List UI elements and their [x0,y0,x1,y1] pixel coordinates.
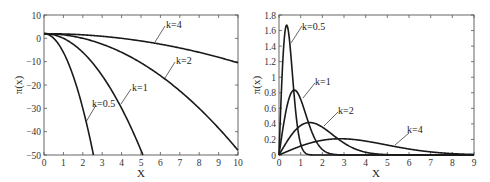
right-curve-k2 [279,123,474,155]
right-y-tick-label: 0.6 [264,104,276,114]
right-ticks: 01234567891.81.61.41.210.80.60.40.20 [264,11,477,169]
right-x-tick-label: 0 [277,158,282,168]
left-y-tick-label: −10 [26,57,41,67]
right-x-tick-label: 3 [342,158,347,168]
left-annotation-arrow-k2 [165,62,175,78]
left-x-axis-label: X [137,167,145,179]
left-y-tick-label: 10 [32,11,42,21]
left-curves [44,34,238,155]
left-curve-k0.5 [44,34,93,155]
right-chart: 01234567891.81.61.41.210.80.60.40.20 k=0… [250,11,477,180]
right-curve-k4 [279,139,474,155]
left-x-tick-label: 7 [177,158,182,168]
right-y-axis-label: π(x) [250,75,263,94]
right-annotation-arrow-k1 [303,83,315,98]
right-x-tick-label: 8 [450,158,455,168]
right-x-tick-label: 6 [407,158,412,168]
right-annotation-k2: k=2 [338,105,354,116]
left-y-tick-label: −40 [26,127,41,137]
right-x-tick-label: 5 [385,158,390,168]
left-y-tick-label: −20 [26,81,41,91]
left-x-tick-label: 4 [119,158,124,168]
left-x-tick-label: 1 [61,158,66,168]
left-x-tick-label: 3 [100,158,105,168]
right-y-tick-label: 1 [271,73,276,83]
left-y-tick-label: −50 [26,151,41,161]
left-y-axis-label: π(x) [12,75,25,94]
left-annotation-k4: k=4 [166,19,182,30]
left-x-tick-label: 6 [158,158,163,168]
left-y-tick-label: −30 [26,104,41,114]
right-y-tick-label: 0.4 [264,119,276,129]
left-x-tick-label: 10 [233,158,243,168]
right-x-tick-label: 1 [298,158,303,168]
left-chart: 012345678910100−10−20−30−40−50 k=4 k=2 k… [12,11,243,180]
right-x-tick-label: 2 [320,158,325,168]
right-y-tick-label: 1.2 [264,57,276,67]
right-curves [279,25,474,155]
left-x-tick-label: 0 [42,158,47,168]
right-y-tick-label: 1.6 [264,26,276,36]
left-annotation-arrow-k1 [121,89,131,104]
right-y-tick-label: 1.4 [264,42,276,52]
figure: 012345678910100−10−20−30−40−50 k=4 k=2 k… [0,0,490,182]
left-x-tick-label: 9 [216,158,221,168]
left-curve-k4 [44,34,238,63]
right-annotation-k0.5: k=0.5 [302,21,325,32]
left-curve-k1 [44,34,143,155]
right-plot-frame [279,15,474,155]
right-x-axis-label: X [372,167,380,179]
left-x-tick-label: 8 [197,158,202,168]
left-annotation-arrow-k4 [155,26,165,42]
right-curve-k0.5 [279,25,474,155]
left-annotation-k0.5: k=0.5 [92,98,115,109]
right-annotation-k1: k=1 [315,76,331,87]
left-annotation-k1: k=1 [132,82,148,93]
right-annotation-arrow-k0.5 [291,26,302,43]
left-annotation-k2: k=2 [176,55,192,66]
right-y-tick-label: 0.8 [264,88,276,98]
right-annotation-k4: k=4 [407,124,423,135]
right-y-tick-label: 1.8 [264,11,276,21]
right-annotation-arrow-k2 [324,112,338,126]
left-y-tick-label: 0 [36,34,41,44]
right-x-tick-label: 7 [428,158,433,168]
left-x-tick-label: 2 [80,158,85,168]
right-x-tick-label: 9 [472,158,477,168]
right-x-tick-label: 4 [363,158,368,168]
right-y-tick-label: 0.2 [264,135,276,145]
right-y-tick-label: 0 [271,151,276,161]
